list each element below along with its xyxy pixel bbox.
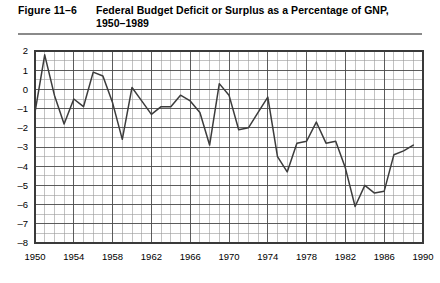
y-axis-tick-label: –7	[17, 218, 28, 229]
caption-divider	[18, 33, 422, 35]
chart-area: 210–1–2–3–4–5–6–7–8 19501954195819621966…	[0, 40, 440, 283]
x-axis-tick-label: 1974	[257, 251, 278, 262]
x-axis-tick-label: 1990	[412, 251, 433, 262]
x-axis-tick-label: 1986	[374, 251, 395, 262]
chart-background	[0, 40, 440, 283]
y-axis-tick-label: 2	[23, 45, 28, 56]
x-axis-tick-label: 1966	[180, 251, 201, 262]
figure-container: Figure 11–6 Federal Budget Deficit or Su…	[0, 0, 440, 283]
figure-title: Federal Budget Deficit or Surplus as a P…	[96, 4, 440, 30]
y-axis-tick-label: –1	[17, 103, 28, 114]
y-axis-tick-label: –3	[17, 141, 28, 152]
figure-title-line-2: 1950–1989	[96, 17, 424, 30]
y-axis-tick-label: –6	[17, 199, 28, 210]
x-axis-tick-label: 1970	[218, 251, 239, 262]
x-axis-tick-label: 1958	[102, 251, 123, 262]
x-axis-tick-label: 1950	[24, 251, 45, 262]
figure-title-line-1: Federal Budget Deficit or Surplus as a P…	[96, 4, 389, 16]
y-axis-tick-label: –2	[17, 122, 28, 133]
y-axis-tick-label: –4	[17, 161, 28, 172]
figure-number: Figure 11–6	[0, 4, 96, 17]
y-axis-tick-label: 0	[23, 84, 28, 95]
x-axis-tick-label: 1962	[141, 251, 162, 262]
x-axis-tick-label: 1954	[63, 251, 84, 262]
line-chart: 210–1–2–3–4–5–6–7–8 19501954195819621966…	[0, 40, 440, 283]
x-axis-tick-label: 1978	[296, 251, 317, 262]
figure-caption: Figure 11–6 Federal Budget Deficit or Su…	[0, 4, 440, 30]
y-axis-tick-label: –5	[17, 180, 28, 191]
y-axis-tick-label: –8	[17, 237, 28, 248]
y-axis-tick-label: 1	[23, 65, 28, 76]
x-axis-tick-label: 1982	[335, 251, 356, 262]
